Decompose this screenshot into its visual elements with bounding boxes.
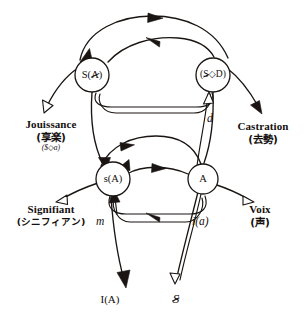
voix-japanese: (声): [232, 216, 288, 228]
node-label-suffix: ◇D): [209, 69, 226, 79]
voix-title: Voix: [232, 203, 288, 216]
edge-label-d-text: d: [207, 112, 213, 124]
edge-label-m: m: [96, 215, 104, 227]
text-block-jouissance: Jouissance (享楽) ($◇a): [8, 118, 94, 153]
node-label-text: s(A): [104, 173, 123, 184]
arrowhead-barredS-origin: [170, 273, 180, 284]
edge-label-i-a: i(a): [192, 215, 209, 227]
node-label-barred-S-lozenge-D: (S◇D): [200, 70, 226, 80]
bottom-label-I-of-A: I(A): [101, 293, 120, 305]
signifiant-japanese: (シニフィアン): [2, 216, 100, 227]
node-label-text: A: [199, 173, 207, 184]
node-label-small-s-A: s(A): [104, 174, 123, 185]
arrowhead-castration: [251, 101, 263, 115]
jouissance-japanese: (享楽): [8, 131, 94, 143]
barred-A-glyph: A: [91, 70, 99, 81]
arrowhead-lower-inner: [152, 164, 167, 173]
node-label-s-barred-A: S(A): [82, 70, 102, 81]
bottom-label-I-of-A-text: I(A): [101, 293, 120, 305]
edge-castration-vector: [228, 69, 258, 106]
barred-S-glyph: S: [203, 70, 208, 80]
edge-lower-outer-arc: [101, 136, 201, 166]
edge-label-i-a-text: i(a): [192, 215, 209, 227]
arrowhead-IA: [117, 270, 130, 288]
node-label-big-A: A: [199, 174, 207, 185]
edge-middle-upper-connector: [95, 93, 213, 107]
edge-jouissance-vector: [47, 68, 78, 106]
signifiant-title: Signifiant: [2, 203, 100, 216]
graph-of-desire-diagram: S(A) (S◇D) s(A) A Jouissance (享楽) ($◇a) …: [0, 0, 304, 323]
edge-barredS-to-A-parallel: [180, 194, 201, 280]
arrowhead-jouissance: [43, 100, 54, 113]
edge-label-m-text: m: [96, 215, 104, 227]
edge-lower-connector: [109, 196, 206, 214]
arrowhead-lower-outer: [120, 143, 135, 151]
node-label-suffix: ): [99, 69, 103, 80]
castration-title: Castration: [224, 120, 302, 133]
diagram-canvas: [0, 0, 304, 323]
edge-middle-upper-connector-inner: [99, 94, 210, 113]
jouissance-title: Jouissance: [8, 118, 94, 131]
text-block-signifiant: Signifiant (シニフィアン): [2, 203, 100, 227]
node-label-prefix: S(: [82, 69, 91, 80]
edge-upper-outer-arc: [80, 16, 228, 60]
edge-barredS-to-A: [176, 192, 198, 281]
text-block-castration: Castration (去勢): [224, 120, 302, 145]
barred-S-bottom-glyph: S: [173, 291, 180, 307]
edge-label-d: d: [207, 112, 213, 124]
arrowhead-upper-outer: [148, 13, 163, 23]
edge-upper-inner-arc: [108, 38, 214, 62]
castration-japanese: (去勢): [224, 133, 302, 145]
text-block-voix: Voix (声): [232, 203, 288, 228]
edge-sA-to-IA: [111, 197, 124, 280]
jouissance-matheme: ($◇a): [8, 144, 94, 153]
bottom-label-barred-S: S: [173, 291, 180, 307]
